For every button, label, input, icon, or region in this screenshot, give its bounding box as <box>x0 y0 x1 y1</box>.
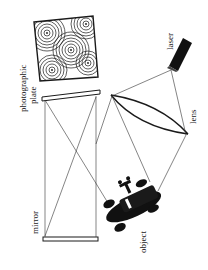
mirror-icon <box>43 237 98 241</box>
ray-lens-to-object <box>158 135 186 191</box>
toy-car-icon <box>94 167 168 235</box>
photographic-plate-icon <box>42 90 100 101</box>
hologram-diagram: photographic plate laser lens mirror obj… <box>0 0 208 270</box>
ray-plate-to-mirror-diag <box>45 97 96 236</box>
interference-pattern-inset <box>29 9 101 85</box>
label-lens: lens <box>188 109 198 124</box>
label-photographic: photographic <box>18 65 28 113</box>
label-mirror: mirror <box>30 211 40 234</box>
label-object: object <box>138 231 148 253</box>
ray-object-to-plate <box>45 100 108 203</box>
ray-lens-to-plate <box>96 96 112 144</box>
lens-icon <box>111 95 188 134</box>
ray-lens-to-object-2 <box>112 96 150 182</box>
label-plate: plate <box>28 87 38 105</box>
label-laser: laser <box>165 33 175 50</box>
diagram-svg: photographic plate laser lens mirror obj… <box>0 0 208 270</box>
ray-laser-to-lens <box>112 70 171 96</box>
